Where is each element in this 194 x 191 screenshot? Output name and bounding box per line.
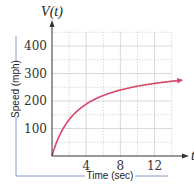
x-axis-symbol: t (191, 148, 194, 163)
y-axis-function-label: V(t) (41, 4, 63, 20)
curve-arrow-icon (177, 78, 183, 84)
y-axis-arrow-icon (50, 20, 55, 27)
y-tick-label: 400 (24, 39, 47, 53)
x-axis-title: Time (sec) (87, 170, 134, 181)
axes (50, 20, 190, 159)
x-tick-label: 12 (147, 159, 162, 173)
speed-curve (52, 78, 183, 156)
speed-curve-line (52, 80, 180, 156)
y-tick-label: 300 (24, 67, 47, 81)
y-tick-label: 100 (24, 122, 47, 136)
x-axis-arrow-icon (182, 154, 189, 159)
tick-labels: 4812100200300400 (24, 39, 162, 173)
y-axis-title: Speed (mph) (10, 60, 21, 118)
y-tick-label: 200 (24, 94, 47, 108)
grid-lines (52, 32, 172, 156)
speed-time-chart: 4812100200300400 V(t) t Time (sec) Speed… (0, 0, 194, 191)
